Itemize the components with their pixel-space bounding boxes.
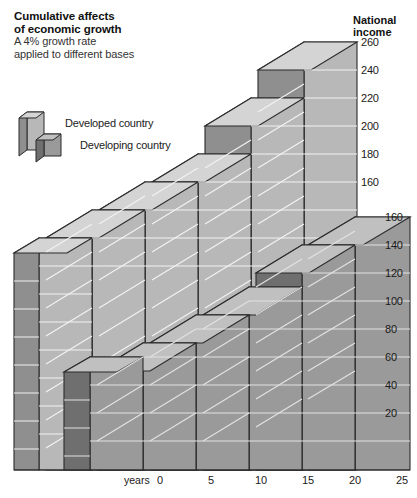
- y-tick-120: 120: [385, 267, 403, 279]
- isometric-staircase-chart: [0, 0, 417, 498]
- developing-step-6-front: [355, 217, 410, 470]
- y-tick-100: 100: [385, 295, 403, 307]
- developed-step-1-side: [14, 238, 39, 470]
- x-tick-20: 20: [349, 474, 361, 486]
- x-tick-0: 0: [157, 474, 163, 486]
- x-tick-10: 10: [255, 474, 267, 486]
- chart-subtitle-line2: applied to different bases: [14, 48, 189, 61]
- y-tick-80: 80: [385, 323, 397, 335]
- x-tick-5: 5: [208, 474, 214, 486]
- y-tick-240: 240: [361, 64, 379, 76]
- y-tick-180: 180: [361, 148, 379, 160]
- chart-canvas: Cumulative affects of economic growth A …: [0, 0, 417, 498]
- x-tick-15: 15: [302, 474, 314, 486]
- chart-title-block: Cumulative affects of economic growth A …: [14, 10, 189, 60]
- y-tick-160-lower: 160: [385, 211, 403, 223]
- y-tick-220: 220: [361, 92, 379, 104]
- y-tick-20: 20: [385, 407, 397, 419]
- legend-label-developing: Developing country: [80, 139, 171, 151]
- y-axis-title-line1: National: [353, 14, 409, 26]
- chart-subtitle-line1: A 4% growth rate: [14, 35, 189, 48]
- developing-step-1-side: [64, 357, 90, 470]
- page-title-line2: of economic growth: [14, 23, 189, 36]
- page-title: Cumulative affects: [14, 10, 189, 23]
- x-axis-title: years: [124, 474, 150, 486]
- legend-label-developed: Developed country: [65, 117, 153, 129]
- y-tick-40: 40: [385, 379, 397, 391]
- y-tick-260: 260: [361, 36, 379, 48]
- x-tick-25: 25: [396, 474, 408, 486]
- y-tick-200: 200: [361, 120, 379, 132]
- y-tick-60: 60: [385, 351, 397, 363]
- y-tick-140: 140: [385, 239, 403, 251]
- legend: Developed country Developing country: [18, 104, 218, 164]
- y-tick-160-upper: 160: [361, 176, 379, 188]
